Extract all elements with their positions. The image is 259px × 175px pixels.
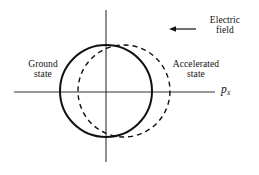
electric-field-label: Electric field — [196, 15, 254, 36]
x-axis-label-symbol: p — [221, 83, 227, 95]
ground-state-label-line2: state — [12, 69, 74, 79]
electric-field-arrow — [169, 26, 196, 32]
ground-state-label: Ground state — [12, 59, 74, 80]
fermi-surface-figure: Electric field Ground state Accelerated … — [0, 0, 259, 175]
electric-field-label-line1: Electric — [196, 15, 254, 25]
electric-field-label-line2: field — [196, 25, 254, 35]
accelerated-state-label-line2: state — [158, 69, 234, 79]
electric-field-arrow-head — [169, 26, 176, 32]
accelerated-state-label-line1: Accelerated — [158, 59, 234, 69]
accelerated-state-label: Accelerated state — [158, 59, 234, 80]
ground-state-label-line1: Ground — [12, 59, 74, 69]
x-axis-label-subscript: x — [227, 88, 230, 97]
accelerated-state-circle — [78, 45, 170, 137]
x-axis-label: px — [221, 83, 230, 97]
